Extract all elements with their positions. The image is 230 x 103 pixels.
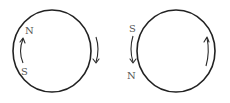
left-up-arrow-icon [20,38,25,63]
right-down-arrow-icon [130,36,136,63]
right-ring [137,10,215,92]
left-ring-panel: N S [13,10,99,92]
right-north-label: N [127,70,136,81]
left-ring [13,10,91,92]
right-south-label: S [129,23,136,34]
left-down-arrow-icon [93,37,99,63]
ring-diagram: N S S N [0,0,230,103]
left-north-label: N [25,25,34,36]
right-ring-panel: S N [127,10,215,92]
left-south-label: S [21,66,28,77]
right-up-arrow-icon [204,37,209,66]
